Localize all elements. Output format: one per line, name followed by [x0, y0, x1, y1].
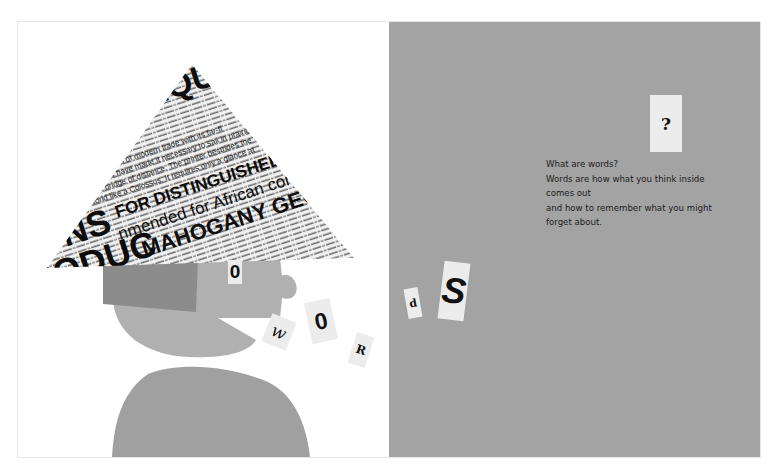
newspaper-hat: EQUE e demands of modern trade with its … [18, 22, 367, 302]
story-line: Words are how what you think inside [546, 172, 736, 187]
story-line: comes out [546, 186, 736, 201]
illustration: EQUE e demands of modern trade with its … [18, 22, 389, 457]
letter-card-s: S [438, 261, 471, 322]
card-letter: S [440, 269, 469, 314]
letter-card-d: d [404, 287, 423, 319]
card-letter: d [408, 296, 418, 310]
left-page: EQUE e demands of modern trade with its … [18, 22, 389, 457]
story-line: What are words? [546, 157, 736, 172]
letter-card-o1: 0 [228, 260, 242, 284]
card-letter: ? [661, 114, 671, 134]
card-letter: 0 [230, 261, 241, 283]
card-letter: 0 [312, 306, 330, 335]
right-page: d S ? What are words? Words are how what… [389, 22, 760, 457]
hair-block [103, 258, 198, 312]
story-line: forget about. [546, 215, 736, 230]
card-letter: w [269, 320, 290, 344]
body-shape [112, 367, 310, 457]
book-spread: EQUE e demands of modern trade with its … [18, 22, 760, 457]
story-line: and how to remember what you might [546, 201, 736, 216]
story-text: What are words? Words are how what you t… [546, 157, 736, 230]
question-mark-card: ? [650, 95, 682, 152]
card-letter: R [354, 342, 368, 358]
